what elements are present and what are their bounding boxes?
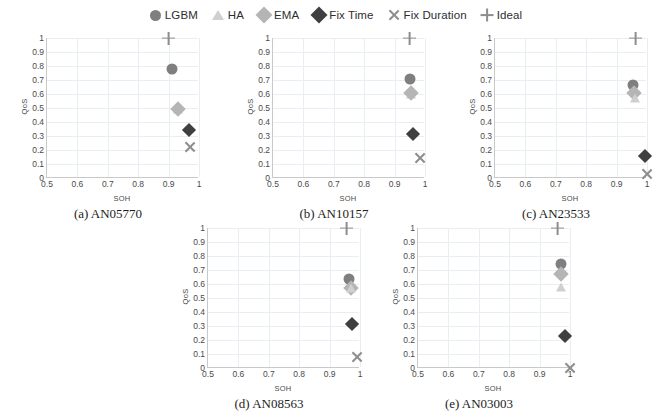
x-axis-tick-label: 0.5 [267, 179, 279, 189]
y-axis-tick-label: 0.3 [480, 131, 492, 141]
gridline-vertical [169, 38, 170, 177]
x-axis-tick-label: 0.5 [489, 179, 501, 189]
data-point-ema [171, 101, 187, 117]
y-axis-tick-label: 0.1 [258, 159, 270, 169]
x-axis-tick-label: 0.6 [71, 179, 83, 189]
gridline-horizontal [208, 354, 359, 355]
x-axis-tick-label: 0.9 [534, 369, 546, 379]
y-axis-tick-label: 0.9 [193, 237, 205, 247]
gridline-horizontal [208, 284, 359, 285]
y-axis-label: QoS [468, 95, 477, 119]
gridline-horizontal [47, 122, 198, 123]
gridline-horizontal [418, 256, 569, 257]
gridline-horizontal [495, 122, 646, 123]
gridline-horizontal [418, 326, 569, 327]
gridline-vertical [360, 228, 361, 367]
gridline-vertical [448, 228, 449, 367]
gridline-horizontal [273, 122, 424, 123]
gridline-horizontal [47, 150, 198, 151]
y-axis-tick-label: 0.3 [258, 131, 270, 141]
y-axis-tick-label: 0.5 [32, 103, 44, 113]
gridline-horizontal [273, 150, 424, 151]
y-axis-tick-label: 0.6 [480, 89, 492, 99]
data-point-ideal [629, 32, 642, 45]
data-point-fix-time [638, 149, 652, 163]
x-axis-tick-label: 0.9 [389, 179, 401, 189]
x-axis-tick-label: 0.5 [202, 369, 214, 379]
gridline-vertical [556, 38, 557, 177]
x-axis-tick-label: 0.8 [580, 179, 592, 189]
triangle-marker-icon [212, 10, 224, 20]
data-point-lgbm [404, 74, 415, 85]
y-axis-tick-label: 1 [39, 33, 44, 43]
gridline-horizontal [273, 52, 424, 53]
gridline-horizontal [495, 164, 646, 165]
gridline-horizontal [208, 340, 359, 341]
gridline-vertical [269, 228, 270, 367]
gridline-horizontal [208, 312, 359, 313]
data-point-ideal [162, 32, 175, 45]
x-axis-label: SOH [272, 194, 424, 203]
y-axis-tick-label: 0.3 [32, 131, 44, 141]
legend-item-lgbm[interactable]: LGBM [150, 9, 198, 21]
gridline-horizontal [208, 228, 359, 229]
data-point-fix-duration [564, 362, 576, 374]
plot-area: 00.10.20.30.40.50.60.70.80.910.50.60.70.… [417, 228, 569, 368]
circle-marker-icon [150, 10, 161, 21]
y-axis-label: QoS [20, 95, 29, 119]
plot-area: 00.10.20.30.40.50.60.70.80.910.50.60.70.… [46, 38, 198, 178]
gridline-horizontal [418, 228, 569, 229]
x-axis-tick-label: 0.6 [297, 179, 309, 189]
plot-area: 00.10.20.30.40.50.60.70.80.910.50.60.70.… [207, 228, 359, 368]
x-axis-label: SOH [46, 194, 198, 203]
y-axis-tick-label: 0.4 [258, 117, 270, 127]
data-point-ideal [403, 32, 416, 45]
subplot-b: 00.10.20.30.40.50.60.70.80.910.50.60.70.… [232, 30, 436, 224]
legend-item-ema[interactable]: EMA [258, 9, 299, 21]
gridline-horizontal [273, 136, 424, 137]
gridline-vertical [509, 228, 510, 367]
y-axis-tick-label: 0.5 [480, 103, 492, 113]
gridline-horizontal [495, 52, 646, 53]
y-axis-tick-label: 0.2 [193, 335, 205, 345]
gridline-vertical [540, 228, 541, 367]
y-axis-tick-label: 0.9 [480, 47, 492, 57]
legend-item-label: LGBM [165, 9, 198, 21]
y-axis-tick-label: 0.9 [258, 47, 270, 57]
y-axis-tick-label: 0.7 [480, 75, 492, 85]
y-axis-tick-label: 0.8 [403, 251, 415, 261]
x-axis-tick-label: 1 [645, 179, 650, 189]
x-axis-label: SOH [207, 384, 359, 393]
legend-item-label: Fix Time [329, 9, 373, 21]
gridline-horizontal [273, 66, 424, 67]
gridline-horizontal [418, 270, 569, 271]
subplot-caption: (d) AN08563 [167, 396, 371, 412]
gridline-horizontal [418, 284, 569, 285]
y-axis-tick-label: 0.5 [258, 103, 270, 113]
gridline-vertical [525, 38, 526, 177]
legend-item-ha[interactable]: HA [212, 9, 244, 21]
gridline-horizontal [273, 108, 424, 109]
x-axis-tick-label: 0.9 [163, 179, 175, 189]
legend-item-fix-duration[interactable]: Fix Duration [388, 9, 467, 21]
y-axis-tick-label: 0.9 [32, 47, 44, 57]
y-axis-label: QoS [246, 95, 255, 119]
x-axis-label: SOH [494, 194, 646, 203]
gridline-horizontal [273, 80, 424, 81]
gridline-vertical [586, 38, 587, 177]
y-axis-tick-label: 0.1 [193, 349, 205, 359]
legend-item-ideal[interactable]: Ideal [481, 9, 522, 21]
y-axis-tick-label: 1 [487, 33, 492, 43]
gridline-horizontal [208, 326, 359, 327]
subplot-caption: (e) AN03003 [377, 396, 581, 412]
y-axis-tick-label: 0.6 [258, 89, 270, 99]
x-axis-tick-label: 0.9 [324, 369, 336, 379]
data-point-lgbm [166, 63, 177, 74]
gridline-horizontal [495, 108, 646, 109]
y-axis-tick-label: 0.2 [32, 145, 44, 155]
x-axis-tick-label: 0.5 [412, 369, 424, 379]
x-axis-tick-label: 0.6 [232, 369, 244, 379]
legend-item-fix-time[interactable]: Fix Time [313, 9, 373, 21]
gridline-horizontal [47, 52, 198, 53]
x-marker-icon [388, 9, 400, 21]
